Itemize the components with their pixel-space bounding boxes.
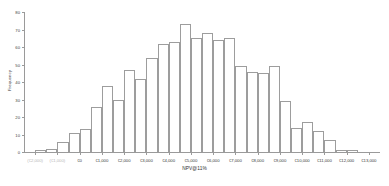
x-tick (124, 152, 125, 155)
x-tick (213, 152, 214, 155)
bar (235, 66, 246, 152)
bar (46, 149, 57, 153)
x-tick (235, 152, 236, 155)
bar (80, 129, 91, 152)
x-tick (324, 152, 325, 155)
x-tick-label: €11,000 (317, 158, 332, 163)
x-tick (258, 152, 259, 155)
y-tick-label: 60 (0, 45, 20, 50)
x-tick (102, 152, 103, 155)
bar (91, 107, 102, 153)
bar (69, 133, 80, 152)
bar (57, 142, 68, 153)
x-tick (169, 152, 170, 155)
bar (302, 122, 313, 152)
bar (324, 140, 335, 152)
x-tick-label: €1,000 (95, 158, 108, 163)
bar (191, 38, 202, 152)
histogram-chart: Frequency 01020304050607080 (€2,000)(€1,… (0, 0, 389, 186)
bar (313, 131, 324, 152)
x-tick (35, 152, 36, 155)
x-tick-label: €7,000 (229, 158, 242, 163)
x-tick (191, 152, 192, 155)
bar-series (24, 12, 380, 152)
bar (35, 150, 46, 152)
x-tick-label: €5,000 (184, 158, 197, 163)
bar (202, 33, 213, 152)
bar (169, 42, 180, 152)
x-tick-label: €9,000 (273, 158, 286, 163)
x-tick (57, 152, 58, 155)
x-axis-title: NPV@11% (0, 166, 389, 171)
x-tick-label: (€2,000) (27, 158, 43, 163)
bar (213, 40, 224, 152)
bar (269, 66, 280, 152)
x-tick-label: €0 (77, 158, 82, 163)
x-tick (80, 152, 81, 155)
x-tick-label: €8,000 (251, 158, 264, 163)
x-tick-label: €4,000 (162, 158, 175, 163)
y-tick-label: 70 (0, 27, 20, 32)
bar (158, 44, 169, 153)
y-tick-label: 10 (0, 132, 20, 137)
y-tick-label: 40 (0, 80, 20, 85)
x-tick-label: €10,000 (295, 158, 310, 163)
x-tick (302, 152, 303, 155)
x-tick-label: €13,000 (361, 158, 376, 163)
x-tick (347, 152, 348, 155)
y-tick-label: 0 (0, 150, 20, 155)
bar (146, 58, 157, 153)
bar (124, 70, 135, 152)
x-tick (280, 152, 281, 155)
bar (336, 150, 347, 152)
x-tick-label: (€1,000) (50, 158, 66, 163)
y-tick-label: 80 (0, 10, 20, 15)
bar (247, 72, 258, 153)
bar (180, 24, 191, 152)
bar (258, 73, 269, 152)
y-tick-label: 30 (0, 97, 20, 102)
x-tick-label: €3,000 (140, 158, 153, 163)
bar (347, 150, 358, 152)
x-tick-label: €6,000 (207, 158, 220, 163)
y-tick (22, 152, 25, 153)
plot-area: 01020304050607080 (€2,000)(€1,000)€0€1,0… (24, 12, 380, 152)
x-axis-line (24, 152, 380, 153)
x-tick (146, 152, 147, 155)
bar (291, 128, 302, 153)
x-tick-label: €12,000 (339, 158, 354, 163)
x-tick-label: €2,000 (118, 158, 131, 163)
bar (135, 79, 146, 153)
y-tick-label: 50 (0, 62, 20, 67)
bar (280, 101, 291, 152)
bar (113, 100, 124, 153)
y-tick-label: 20 (0, 115, 20, 120)
bar (224, 38, 235, 152)
bar (102, 86, 113, 153)
x-tick (369, 152, 370, 155)
